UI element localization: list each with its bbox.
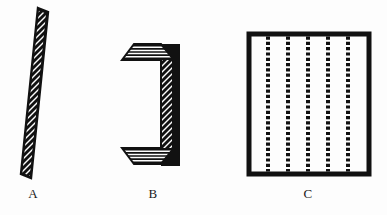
figure-b-label: B bbox=[141, 186, 165, 202]
figure-c-drawing bbox=[243, 28, 378, 183]
web-side-band bbox=[172, 44, 180, 166]
figure-c-panel bbox=[243, 28, 378, 183]
figure-a-panel bbox=[0, 0, 90, 190]
figure-c-label: C bbox=[296, 186, 320, 202]
figure-a-drawing bbox=[0, 0, 90, 190]
figure-a-label: A bbox=[21, 186, 45, 202]
figure-b-drawing bbox=[108, 30, 198, 180]
figure-canvas: A bbox=[0, 0, 387, 215]
figure-b-panel bbox=[108, 30, 198, 180]
